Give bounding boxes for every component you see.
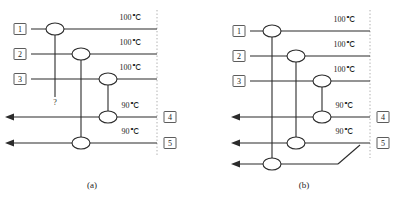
panel-b-tag-label-3: 3 (237, 77, 241, 86)
panel-a-caption: (a) (87, 180, 97, 190)
panel-a-exchanger-2[interactable] (72, 48, 90, 60)
panel-b-diagonal-connector (338, 145, 360, 164)
panel-a-tag-label-2: 2 (18, 50, 22, 59)
panel-b-tag-label-2: 2 (237, 52, 241, 61)
panel-b-tag-label-1: 1 (237, 27, 241, 36)
panel-a-exchanger-5[interactable] (72, 137, 90, 149)
panel-b-exchanger-4[interactable] (313, 111, 331, 123)
panel-a-tag-label-1: 1 (18, 25, 22, 34)
panel-b-arrow-5 (231, 140, 240, 147)
panel-b-temperature-3: 100℃ (334, 65, 355, 74)
panel-a-arrow-4 (5, 114, 14, 121)
panel-a-exchanger-3[interactable] (99, 73, 117, 85)
grid-diagram-svg: 1 100℃ 2 100℃ 3 100℃ 4 90℃ 5 90℃ ? (0, 0, 400, 201)
panel-a-temperature-1: 100℃ (120, 13, 141, 22)
panel-a-temperature-2: 100℃ (120, 38, 141, 47)
panel-a-temperature-5: 90℃ (122, 127, 139, 136)
panel-b-exchanger-1[interactable] (263, 25, 281, 37)
panel-b-temperature-4: 90℃ (336, 101, 353, 110)
panel-b-arrow-4 (231, 114, 240, 121)
panel-b-exchanger-5[interactable] (287, 137, 305, 149)
panel-a-exchanger-1[interactable] (46, 23, 64, 35)
panel-b-exchanger-3[interactable] (313, 75, 331, 87)
panel-a-temperature-3: 100℃ (120, 63, 141, 72)
panel-a-exchanger-4[interactable] (99, 111, 117, 123)
panel-a-tag-label-3: 3 (18, 75, 22, 84)
panel-b-exchanger-6[interactable] (263, 158, 281, 170)
panel-b-tag-label-5: 5 (381, 139, 385, 148)
panel-b-caption: (b) (299, 180, 310, 190)
panel-a-tag-label-5: 5 (168, 139, 172, 148)
panel-b-temperature-2: 100℃ (334, 40, 355, 49)
panel-a-arrow-5 (5, 140, 14, 147)
panel-a: 1 100℃ 2 100℃ 3 100℃ 4 90℃ 5 90℃ ? (5, 10, 176, 190)
panel-a-tag-label-4: 4 (168, 113, 172, 122)
panel-b-exchanger-2[interactable] (287, 50, 305, 62)
panel-a-temperature-4: 90℃ (122, 101, 139, 110)
panel-b: 1 100℃ 2 100℃ 3 100℃ 4 90℃ 5 90℃ (231, 10, 389, 190)
panel-b-temperature-1: 100℃ (334, 15, 355, 24)
panel-b-arrow-6 (231, 161, 240, 168)
panel-a-unknown-marker: ? (53, 98, 57, 107)
figure-container: 1 100℃ 2 100℃ 3 100℃ 4 90℃ 5 90℃ ? (0, 0, 400, 201)
panel-b-tag-label-4: 4 (381, 113, 385, 122)
panel-b-temperature-5: 90℃ (336, 127, 353, 136)
